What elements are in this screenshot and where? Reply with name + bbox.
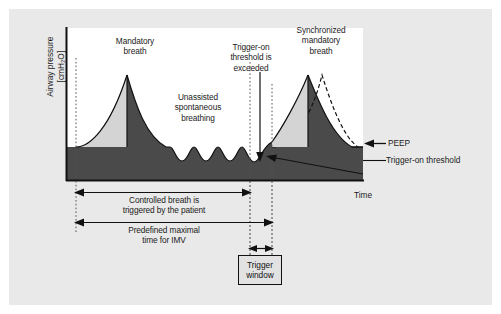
annotation-peep-label: PEEP — [388, 138, 410, 148]
trigger-window-box: Trigger window — [238, 255, 282, 285]
annotation-trigger-on-threshold-label: Trigger-on threshold — [386, 155, 460, 165]
annotation-mandatory-breath: Mandatory breath — [93, 36, 177, 57]
figure-root: Airway pressure [cmH₂O] — [0, 0, 501, 314]
annotation-predefined-maximal-time: Predefined maximal time for IMV — [86, 225, 242, 246]
trigger-window-interval-arrow-left — [248, 245, 257, 252]
annotation-controlled-breath-interval: Controlled breath is triggered by the pa… — [86, 195, 242, 216]
trigger-window-interval-arrow-right — [265, 245, 274, 252]
trigger-window-label: Trigger window — [246, 260, 274, 281]
annotation-trigger-on-exceeded: Trigger-on threshold is exceeded — [215, 42, 287, 73]
annotation-unassisted-spontaneous-breathing: Unassisted spontaneous breathing — [159, 92, 237, 123]
x-axis-label: Time — [354, 190, 372, 200]
peep-arrow-head — [364, 140, 374, 148]
annotation-synchronized-mandatory-breath: Synchronized mandatory breath — [281, 25, 361, 56]
